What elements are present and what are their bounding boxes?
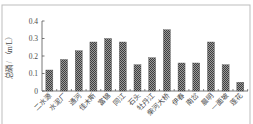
x-tick-label: 南岔	[184, 91, 200, 107]
x-tick-label: 伊春	[170, 91, 186, 107]
y-tick-label: 0.2	[29, 52, 39, 61]
y-axis: 00.10.20.30.4	[29, 17, 45, 96]
x-tick-label: 富锦	[96, 91, 112, 107]
bar	[105, 39, 112, 92]
y-axis-title: 总磷 / （m/L）	[4, 33, 14, 79]
bar	[149, 58, 156, 91]
bar	[90, 42, 97, 91]
bar	[134, 65, 141, 91]
bar	[193, 63, 200, 91]
x-tick-labels: 二水源水泥厂通河佳木斯富锦同江石头牡丹江柴河大桥伊春南岔晨明一面坡莲花	[33, 91, 245, 117]
bar-chart: 00.10.20.30.4 二水源水泥厂通河佳木斯富锦同江石头牡丹江柴河大桥伊春…	[0, 0, 253, 124]
x-tick-label: 莲花	[228, 91, 244, 107]
x-tick-label: 同江	[112, 92, 128, 108]
y-tick-label: 0.1	[29, 69, 39, 78]
bar	[178, 63, 185, 91]
bars	[46, 30, 244, 91]
bar	[237, 82, 244, 91]
bar	[75, 51, 82, 91]
bar	[222, 65, 229, 91]
chart-container: 00.10.20.30.4 二水源水泥厂通河佳木斯富锦同江石头牡丹江柴河大桥伊春…	[0, 0, 253, 124]
bar	[46, 70, 53, 91]
y-tick-label: 0.3	[29, 34, 39, 43]
bar	[61, 60, 68, 92]
y-tick-label: 0.4	[29, 17, 39, 26]
x-axis	[42, 89, 248, 91]
bar	[207, 42, 214, 91]
bar	[119, 42, 126, 91]
bar	[163, 30, 170, 91]
y-tick-label: 0	[34, 87, 38, 96]
